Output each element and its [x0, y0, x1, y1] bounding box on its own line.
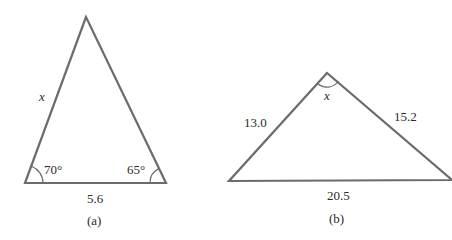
base-label-a: 5.6	[87, 192, 103, 205]
side-label-left-b: 13.0	[244, 116, 267, 129]
angle-arc-x	[318, 81, 339, 87]
angle-label-right-a: 65°	[127, 163, 145, 176]
angle-label-x-b: x	[324, 89, 330, 102]
caption-b: (b)	[329, 212, 344, 225]
angle-arc-65	[150, 168, 159, 183]
triangles-diagram	[0, 0, 452, 240]
side-label-x-a: x	[39, 90, 45, 103]
caption-a: (a)	[87, 214, 101, 227]
base-label-b: 20.5	[327, 189, 350, 202]
angle-arc-70	[32, 166, 44, 183]
side-label-right-b: 15.2	[394, 110, 417, 123]
angle-label-left-a: 70°	[44, 163, 62, 176]
triangle-a	[25, 17, 166, 183]
